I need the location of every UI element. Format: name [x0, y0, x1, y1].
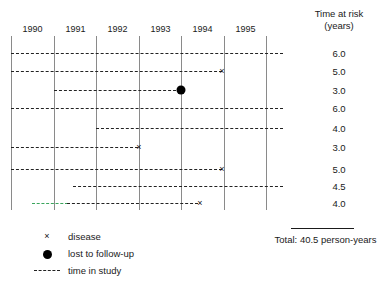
gridline-1995: [224, 36, 225, 210]
subject-track-5: [96, 128, 283, 129]
x-axis-label-1990: 1990: [11, 24, 54, 34]
disease-marker-6: ×: [136, 143, 141, 152]
subject-track-6: [11, 147, 138, 148]
subject-track-7: [11, 169, 222, 170]
time-at-risk-value-6: 3.0: [290, 142, 388, 153]
subject-track-3: [54, 90, 181, 91]
disease-marker-2: ×: [219, 67, 224, 76]
subject-track-1: [11, 53, 283, 54]
total-person-years-label: Total: 40.5 person-years: [263, 234, 388, 246]
time-at-risk-value-1: 6.0: [290, 48, 388, 59]
legend-x-icon: ×: [32, 228, 62, 245]
legend-item-lost-to-followup: lost to follow-up: [32, 245, 212, 262]
time-at-risk-header-line2: (years): [290, 20, 388, 32]
time-at-risk-value-8: 4.5: [290, 181, 388, 192]
gridline-1993: [139, 36, 140, 210]
gridline-1990: [11, 36, 12, 210]
gridline-1992: [96, 36, 97, 210]
x-axis-label-1994: 1994: [181, 24, 224, 34]
gridline-1994: [181, 36, 182, 210]
time-at-risk-value-9: 4.0: [290, 198, 388, 209]
subject-track-9-green-segment: [32, 203, 68, 204]
total-divider-rule: [291, 228, 354, 229]
legend-item-disease: × disease: [32, 228, 212, 245]
legend-label-disease: disease: [68, 228, 101, 245]
gridline-1991: [54, 36, 55, 210]
subject-track-2: [11, 71, 222, 72]
legend-dashed-line-icon: [32, 262, 62, 279]
x-axis-label-1992: 1992: [96, 24, 139, 34]
subject-track-4: [11, 108, 283, 109]
legend-dot-icon: [32, 245, 62, 262]
x-axis-label-1993: 1993: [139, 24, 182, 34]
time-at-risk-value-4: 6.0: [290, 103, 388, 114]
disease-marker-7: ×: [219, 165, 224, 174]
legend-label-lost-to-followup: lost to follow-up: [68, 245, 134, 262]
lost-to-followup-marker-3: [177, 86, 186, 95]
time-at-risk-value-3: 3.0: [290, 85, 388, 96]
x-axis-label-1995: 1995: [224, 24, 267, 34]
legend-label-time-in-study: time in study: [68, 262, 121, 279]
time-at-risk-header-line1: Time at risk: [290, 8, 388, 20]
subject-track-9: [67, 203, 198, 204]
subject-track-8: [73, 186, 283, 187]
legend-item-time-in-study: time in study: [32, 262, 212, 279]
gridline-1996: [266, 36, 267, 210]
x-axis-label-1991: 1991: [54, 24, 97, 34]
time-at-risk-value-7: 5.0: [290, 164, 388, 175]
figure-root: 1990 1991 1992 1993 1994 1995 × × × × Ti: [0, 0, 388, 288]
time-at-risk-value-5: 4.0: [290, 123, 388, 134]
timeline-plot: 1990 1991 1992 1993 1994 1995 × × × ×: [0, 0, 290, 220]
disease-marker-9: ×: [197, 199, 202, 208]
time-at-risk-value-2: 5.0: [290, 66, 388, 77]
legend: × disease lost to follow-up time in stud…: [32, 228, 212, 279]
